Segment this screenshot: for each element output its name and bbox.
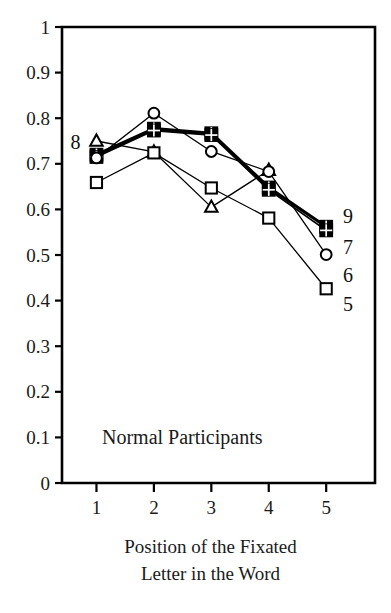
- marker-open-square: [148, 147, 159, 158]
- marker-open-square: [263, 212, 274, 223]
- x-axis-label-line1: Position of the Fixated: [124, 536, 297, 557]
- marker-circle: [91, 152, 102, 163]
- y-axis-tick-label: 0.4: [26, 290, 50, 311]
- y-axis-tick-label: 0.6: [26, 199, 50, 220]
- series-label-9: 9: [343, 205, 353, 227]
- y-axis-tick-label: 0.1: [26, 427, 50, 448]
- series-label-6: 6: [343, 264, 353, 286]
- y-axis-tick-label: 0.2: [26, 381, 50, 402]
- series-line-5: [96, 153, 326, 289]
- x-axis-label-line2: Letter in the Word: [141, 563, 280, 584]
- x-axis-tick-label: 1: [92, 497, 102, 518]
- marker-circle: [206, 146, 217, 157]
- y-axis-tick-label: 0.7: [26, 153, 50, 174]
- series-label-5: 5: [343, 293, 353, 315]
- series-line-8: [96, 141, 268, 207]
- chart-annotation: Normal Participants: [102, 426, 263, 449]
- y-axis-tick-label: 0.5: [26, 245, 50, 266]
- x-axis-tick-label: 4: [264, 497, 274, 518]
- series-label-8: 8: [70, 131, 80, 153]
- marker-open-square: [91, 177, 102, 188]
- chart-figure: 10.90.80.70.60.50.40.30.20.101234589765N…: [0, 0, 391, 613]
- line-chart: 10.90.80.70.60.50.40.30.20.101234589765N…: [0, 0, 391, 613]
- y-axis-tick-label: 0.3: [26, 336, 50, 357]
- marker-open-square: [321, 283, 332, 294]
- marker-triangle: [90, 134, 103, 145]
- y-axis-tick-label: 0.8: [26, 108, 50, 129]
- x-axis-tick-label: 2: [149, 497, 159, 518]
- marker-circle: [321, 249, 332, 260]
- marker-circle: [263, 166, 274, 177]
- y-axis-tick-label: 0.9: [26, 62, 50, 83]
- marker-circle: [148, 108, 159, 119]
- series-label-7: 7: [343, 236, 353, 258]
- y-axis-tick-label: 0: [41, 473, 51, 494]
- marker-open-square: [206, 182, 217, 193]
- y-axis-tick-label: 1: [41, 17, 51, 38]
- x-axis-tick-label: 3: [207, 497, 217, 518]
- x-axis-tick-label: 5: [321, 497, 331, 518]
